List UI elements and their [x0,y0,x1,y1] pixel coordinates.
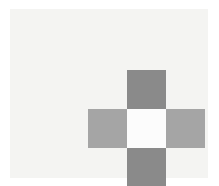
cell-corner-top-right [166,70,205,109]
cell-corner-top-left [88,70,127,109]
cell-arm-left [88,109,127,148]
cell-arm-top [127,70,166,109]
figure-root [0,0,219,186]
cross-grid [88,70,205,186]
cell-arm-bottom [127,148,166,186]
cell-corner-bottom-right [166,148,205,186]
cell-corner-bottom-left [88,148,127,186]
cell-center [127,109,166,148]
cell-arm-right [166,109,205,148]
